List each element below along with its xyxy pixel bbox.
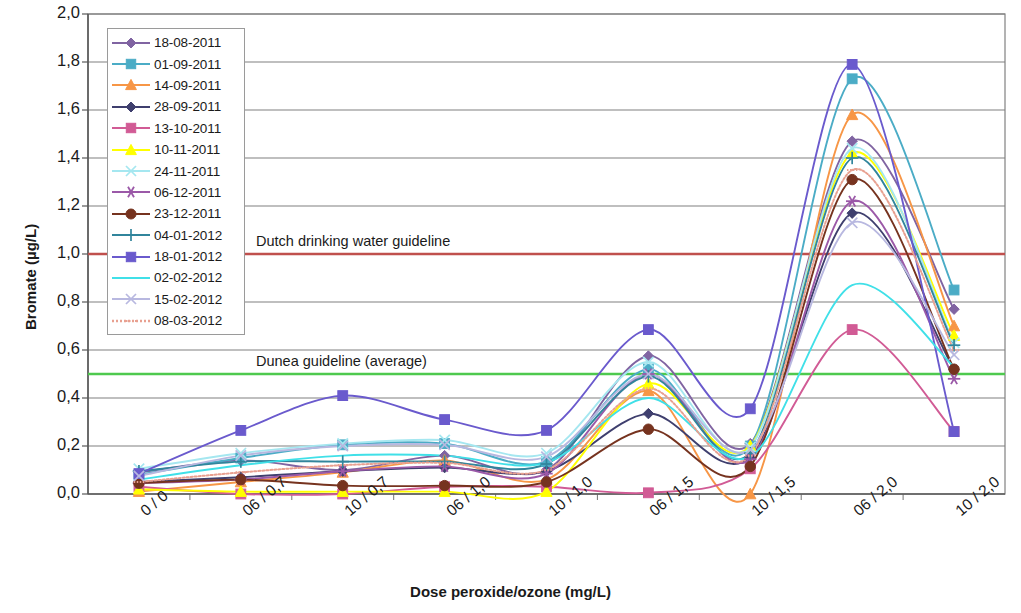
legend-swatch-square-icon: [111, 249, 151, 265]
y-axis-tick-8: 1,6: [32, 99, 80, 118]
legend-label: 01-09-2011: [151, 57, 221, 72]
x-axis-title: Dose peroxide/ozone (mg/L): [0, 583, 1021, 600]
legend-swatch-triangle-icon: [111, 142, 151, 158]
legend-item-02-02-2012[interactable]: 02-02-2012: [111, 267, 240, 288]
legend-item-08-03-2012[interactable]: 08-03-2012: [111, 310, 240, 331]
legend: 18-08-201101-09-201114-09-201128-09-2011…: [107, 28, 245, 335]
legend-label: 08-03-2012: [151, 313, 222, 328]
legend-label: 15-02-2012: [151, 292, 222, 307]
legend-swatch-diamond-icon: [111, 99, 151, 115]
legend-label: 18-08-2011: [151, 35, 221, 50]
legend-item-01-09-2011[interactable]: 01-09-2011: [111, 53, 240, 74]
legend-swatch-x-icon: [111, 163, 151, 179]
legend-label: 24-11-2011: [151, 164, 220, 179]
legend-item-04-01-2012[interactable]: 04-01-2012: [111, 225, 240, 246]
legend-item-18-01-2012[interactable]: 18-01-2012: [111, 246, 240, 267]
legend-swatch-square-icon: [111, 56, 151, 72]
legend-label: 06-12-2011: [151, 185, 221, 200]
legend-item-28-09-2011[interactable]: 28-09-2011: [111, 96, 240, 117]
legend-label: 18-01-2012: [151, 249, 222, 264]
y-axis-tick-5: 1,0: [32, 243, 80, 262]
legend-label: 23-12-2011: [151, 206, 221, 221]
legend-label: 10-11-2011: [151, 142, 220, 157]
y-axis-title: Bromate (µg/L): [22, 224, 39, 330]
legend-item-15-02-2012[interactable]: 15-02-2012: [111, 289, 240, 310]
legend-swatch-dotted-icon: [111, 313, 151, 329]
legend-item-10-11-2011[interactable]: 10-11-2011: [111, 139, 240, 160]
legend-label: 04-01-2012: [151, 228, 222, 243]
legend-swatch-circle-icon: [111, 206, 151, 222]
legend-label: 02-02-2012: [151, 270, 222, 285]
annotation-dunea-guideline: Dunea guideline (average): [256, 353, 427, 369]
y-axis-tick-4: 0,8: [32, 291, 80, 310]
legend-label: 13-10-2011: [151, 121, 221, 136]
y-axis-tick-9: 1,8: [32, 51, 80, 70]
legend-swatch-asterisk-icon: [111, 184, 151, 200]
legend-item-23-12-2011[interactable]: 23-12-2011: [111, 203, 240, 224]
legend-item-24-11-2011[interactable]: 24-11-2011: [111, 160, 240, 181]
legend-swatch-diamond-icon: [111, 35, 151, 51]
y-axis-tick-10: 2,0: [32, 3, 80, 22]
y-axis-tick-1: 0,2: [32, 435, 80, 454]
legend-swatch-line-icon: [111, 270, 151, 286]
legend-swatch-triangle-icon: [111, 77, 151, 93]
bromate-dose-chart: 0,00,20,40,60,81,01,21,41,61,82,0 Bromat…: [0, 0, 1021, 613]
legend-item-06-12-2011[interactable]: 06-12-2011: [111, 182, 240, 203]
legend-item-18-08-2011[interactable]: 18-08-2011: [111, 32, 240, 53]
y-axis-tick-7: 1,4: [32, 147, 80, 166]
legend-item-14-09-2011[interactable]: 14-09-2011: [111, 75, 240, 96]
legend-label: 14-09-2011: [151, 78, 221, 93]
annotation-dutch-drinking-water-guideline: Dutch drinking water guideline: [256, 233, 450, 249]
legend-label: 28-09-2011: [151, 99, 221, 114]
legend-swatch-plus-icon: [111, 227, 151, 243]
y-axis-tick-6: 1,2: [32, 195, 80, 214]
legend-item-13-10-2011[interactable]: 13-10-2011: [111, 118, 240, 139]
y-axis-tick-2: 0,4: [32, 387, 80, 406]
legend-swatch-square-icon: [111, 120, 151, 136]
y-axis-tick-3: 0,6: [32, 339, 80, 358]
y-axis-tick-0: 0,0: [32, 483, 80, 502]
legend-swatch-x-icon: [111, 291, 151, 307]
